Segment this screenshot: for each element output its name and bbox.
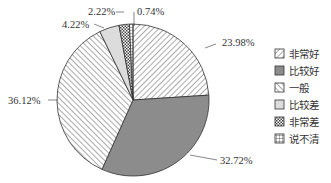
data-label-2: 36.12% — [8, 95, 41, 106]
pie-slice-0 — [133, 24, 209, 100]
legend-label-0: 非常好 — [289, 48, 320, 60]
legend-swatch-1 — [275, 66, 284, 75]
data-label-4: 2.22% — [88, 6, 115, 17]
pie-chart: 23.98%32.72%36.12%4.22%2.22%0.74% 非常好比较好… — [0, 0, 331, 183]
legend-swatch-4 — [275, 117, 284, 126]
legend-label-5: 说不清 — [289, 133, 319, 145]
legend-swatch-5 — [275, 134, 284, 143]
data-label-1: 32.72% — [220, 155, 253, 166]
leader-line-1 — [190, 155, 217, 160]
legend-swatch-3 — [275, 100, 284, 109]
legend-label-3: 比较差 — [289, 99, 319, 111]
legend-swatch-0 — [275, 49, 284, 58]
legend-label-4: 非常差 — [289, 116, 319, 128]
legend-swatch-2 — [275, 83, 284, 92]
data-label-5: 0.74% — [137, 6, 164, 17]
leader-line-3 — [94, 24, 104, 28]
legend-label-1: 比较好 — [289, 65, 320, 77]
leader-line-0 — [205, 44, 216, 48]
data-label-0: 23.98% — [222, 37, 255, 48]
legend-label-2: 一般 — [289, 82, 310, 94]
data-label-3: 4.22% — [62, 19, 89, 30]
